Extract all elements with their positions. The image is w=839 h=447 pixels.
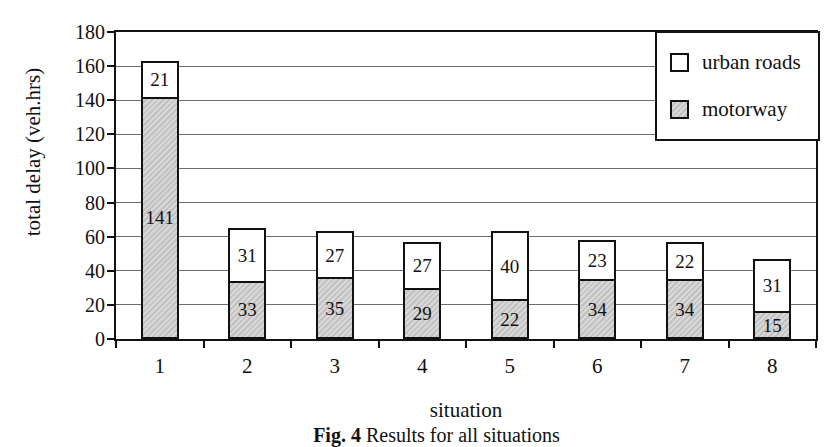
x-axis-tick (728, 341, 730, 348)
bar-value-label: 31 (238, 246, 257, 265)
y-tick-label: 0 (45, 328, 105, 350)
bar-segment-urban-roads: 21 (141, 61, 179, 99)
bar-value-label: 35 (325, 299, 344, 318)
y-axis-title: total delay (veh.hrs) (21, 68, 46, 237)
gridline (116, 202, 816, 203)
bar-segment-urban-roads: 31 (753, 259, 791, 314)
x-axis-tick (553, 341, 555, 348)
y-axis-tick (107, 304, 116, 306)
x-axis-tick (203, 341, 205, 348)
legend: urban roads motorway (655, 31, 820, 141)
y-axis-tick (107, 31, 116, 33)
bar-value-label: 23 (588, 251, 607, 270)
legend-label-motorway: motorway (702, 97, 787, 122)
y-tick-label: 40 (45, 260, 105, 282)
bar-value-label: 27 (413, 256, 432, 275)
motorway-swatch-icon (670, 100, 689, 119)
x-axis-tick (465, 341, 467, 348)
urban-roads-swatch-icon (670, 53, 689, 72)
y-axis-tick (107, 167, 116, 169)
x-tick-label: 1 (140, 354, 180, 379)
figure-caption-prefix: Fig. 4 (313, 424, 361, 446)
y-axis-tick (107, 202, 116, 204)
y-tick-label: 120 (45, 123, 105, 145)
x-axis-tick (640, 341, 642, 348)
gridline (116, 236, 816, 237)
bar-value-label: 33 (238, 300, 257, 319)
bar-segment-urban-roads: 27 (403, 242, 441, 290)
gridline (116, 304, 816, 305)
bar-value-label: 22 (675, 252, 694, 271)
x-tick-label: 8 (752, 354, 792, 379)
bar-segment-urban-roads: 23 (578, 240, 616, 281)
bar-segment-motorway: 35 (316, 277, 354, 339)
bar-value-label: 22 (500, 310, 519, 329)
x-tick-label: 3 (315, 354, 355, 379)
bar-value-label: 34 (588, 300, 607, 319)
bar-segment-motorway: 29 (403, 288, 441, 339)
gridline (116, 270, 816, 271)
bar-segment-motorway: 15 (753, 311, 791, 339)
y-axis-tick (107, 133, 116, 135)
bar-segment-motorway: 22 (491, 299, 529, 339)
x-axis-tick (115, 341, 117, 348)
bar-segment-motorway: 141 (141, 97, 179, 339)
figure-caption-text: Results for all situations (361, 424, 560, 446)
x-tick-label: 6 (577, 354, 617, 379)
bar-value-label: 141 (146, 208, 175, 227)
legend-entry-motorway: motorway (670, 97, 818, 122)
bar-segment-motorway: 33 (228, 281, 266, 339)
y-axis-tick (107, 65, 116, 67)
bar-value-label: 21 (150, 70, 169, 89)
x-axis-tick (815, 341, 817, 348)
y-tick-label: 100 (45, 157, 105, 179)
y-tick-label: 180 (45, 21, 105, 43)
legend-label-urban-roads: urban roads (702, 50, 801, 75)
y-tick-label: 80 (45, 192, 105, 214)
bar-value-label: 40 (500, 257, 519, 276)
y-tick-label: 20 (45, 294, 105, 316)
y-tick-label: 60 (45, 226, 105, 248)
bar-value-label: 15 (763, 316, 782, 335)
bar-segment-urban-roads: 40 (491, 231, 529, 301)
x-tick-label: 4 (402, 354, 442, 379)
y-axis-tick (107, 338, 116, 340)
bar-value-label: 27 (325, 246, 344, 265)
y-axis-tick (107, 236, 116, 238)
y-tick-label: 160 (45, 55, 105, 77)
bar-segment-urban-roads: 22 (666, 242, 704, 282)
figure-caption: Fig. 4 Results for all situations (0, 424, 839, 447)
bar-segment-urban-roads: 31 (228, 228, 266, 283)
bar-segment-motorway: 34 (666, 279, 704, 339)
gridline (116, 168, 816, 169)
y-tick-label: 140 (45, 89, 105, 111)
x-axis-title: situation (114, 398, 818, 423)
x-tick-label: 2 (227, 354, 267, 379)
x-axis-tick (290, 341, 292, 348)
y-axis-tick (107, 270, 116, 272)
y-axis-tick (107, 99, 116, 101)
x-axis-tick (378, 341, 380, 348)
x-tick-label: 5 (490, 354, 530, 379)
bar-value-label: 29 (413, 304, 432, 323)
x-tick-label: 7 (665, 354, 705, 379)
bar-value-label: 34 (675, 300, 694, 319)
bar-segment-urban-roads: 27 (316, 231, 354, 279)
bar-segment-motorway: 34 (578, 279, 616, 339)
bar-value-label: 31 (763, 276, 782, 295)
legend-entry-urban-roads: urban roads (670, 50, 818, 75)
